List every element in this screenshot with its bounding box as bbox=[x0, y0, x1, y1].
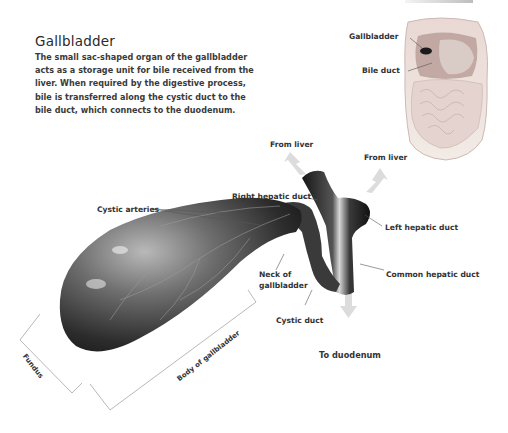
gallbladder-illustration bbox=[0, 0, 508, 433]
label-cystic-arteries: Cystic arteries bbox=[97, 205, 159, 215]
label-to-duodenum: To duodenum bbox=[319, 350, 381, 360]
label-right-hepatic-duct: Right hepatic duct bbox=[232, 192, 311, 202]
label-from-liver-left: From liver bbox=[270, 140, 313, 150]
label-neck-line2: gallbladder bbox=[259, 281, 308, 291]
arrow-to-duodenum bbox=[340, 292, 357, 318]
inset-gallbladder-marker bbox=[420, 48, 432, 55]
arrow-from-liver-left bbox=[284, 152, 306, 175]
label-neck-line1: Neck of bbox=[259, 270, 291, 280]
label-inset-gallbladder: Gallbladder bbox=[349, 32, 399, 42]
label-inset-bile-duct: Bile duct bbox=[362, 66, 400, 76]
label-from-liver-right: From liver bbox=[364, 153, 407, 163]
label-left-hepatic-duct: Left hepatic duct bbox=[385, 223, 458, 233]
label-cystic-duct: Cystic duct bbox=[276, 316, 323, 326]
arrow-from-liver-right bbox=[366, 168, 388, 193]
torso-inset bbox=[405, 18, 488, 160]
label-common-hepatic-duct: Common hepatic duct bbox=[386, 270, 479, 280]
